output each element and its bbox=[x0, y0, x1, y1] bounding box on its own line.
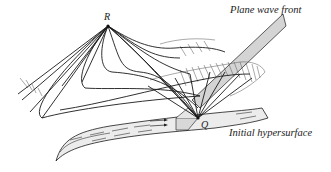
wave-front-diagram: R Q Plane wave front Initial hypersurfac… bbox=[0, 0, 331, 172]
point-r-marker bbox=[106, 24, 109, 27]
label-point-q: Q bbox=[201, 119, 208, 130]
label-plane-wave-front: Plane wave front bbox=[230, 4, 301, 15]
diagram-canvas bbox=[0, 0, 331, 172]
label-point-r: R bbox=[104, 11, 110, 22]
point-q-marker bbox=[196, 116, 199, 119]
plane-wave-front bbox=[192, 14, 286, 108]
label-initial-hypersurface: Initial hypersurface bbox=[229, 127, 312, 138]
rays-from-r bbox=[18, 26, 252, 118]
